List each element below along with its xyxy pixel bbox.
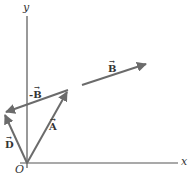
- vector-neg-b-label: →-B: [29, 90, 42, 100]
- x-axis-label: x: [181, 156, 187, 167]
- vector-a-label: →A: [49, 122, 57, 132]
- vector-b-label: →B: [108, 64, 116, 74]
- origin-label: O: [15, 164, 24, 175]
- vector-d-label: →D: [5, 140, 14, 150]
- y-axis-label: y: [23, 2, 29, 13]
